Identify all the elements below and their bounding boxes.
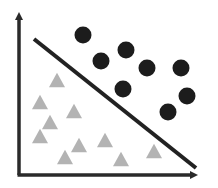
separator-line xyxy=(34,39,196,168)
triangle-point-icon xyxy=(66,104,82,118)
circle-point-icon xyxy=(75,27,92,44)
circle-point-icon xyxy=(160,104,177,121)
circle-point-icon xyxy=(173,60,190,77)
triangle-point-icon xyxy=(113,152,129,166)
triangle-point-icon xyxy=(71,138,87,152)
classification-diagram xyxy=(0,0,218,188)
triangle-point-icon xyxy=(97,133,113,147)
circle-point-icon xyxy=(139,60,156,77)
circle-point-icon xyxy=(93,53,110,70)
triangle-point-icon xyxy=(32,95,48,109)
triangle-point-icon xyxy=(49,73,65,87)
triangle-point-icon xyxy=(57,150,73,164)
circle-points xyxy=(75,27,196,121)
circle-point-icon xyxy=(179,88,196,105)
triangle-point-icon xyxy=(42,115,58,129)
triangle-point-icon xyxy=(146,144,162,158)
circle-point-icon xyxy=(118,42,135,59)
decision-boundary xyxy=(34,39,196,168)
triangle-point-icon xyxy=(32,129,48,143)
circle-point-icon xyxy=(115,81,132,98)
